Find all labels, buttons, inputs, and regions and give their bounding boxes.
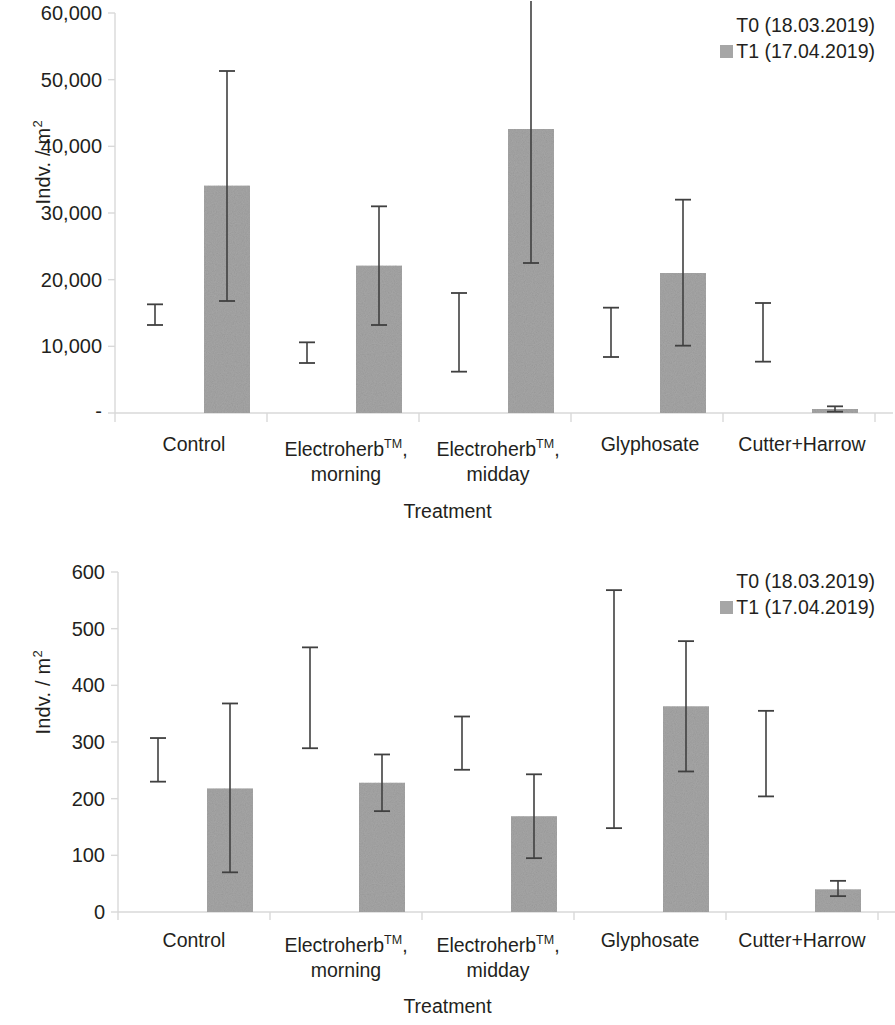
legend-label-t1-bottom: T1 (17.04.2019) (736, 594, 875, 620)
y-axis-label-top: Indv. / m2 (0, 150, 30, 175)
y-tick-label: 500 (72, 618, 105, 640)
x-axis-categories-top: ControlElectroherbTM, morningElectroherb… (118, 432, 878, 487)
y-tick-label: 300 (72, 731, 105, 753)
error-bar-t0-electroherb-midday (451, 293, 467, 372)
legend-item-t1-bottom: T1 (17.04.2019) (720, 594, 875, 620)
trademark-mark: TM (536, 437, 554, 451)
y-tick-label: 200 (72, 788, 105, 810)
chart-bottom-panel: Indv. / m2 T0 (18.03.2019) T1 (17.04.201… (0, 540, 895, 1025)
x-category-label: ElectroherbTM, morning (270, 928, 422, 983)
legend-swatch-t1-top (720, 45, 733, 58)
x-category-label: Cutter+Harrow (726, 432, 878, 487)
y-tick-label: 20,000 (41, 269, 102, 291)
legend-item-t0-bottom: T0 (18.03.2019) (720, 568, 875, 594)
y-axis-label-text-bottom: Indv. / m (32, 658, 54, 735)
trademark-mark: TM (384, 933, 402, 947)
error-bar-t0-electroherb-morning (299, 342, 315, 363)
error-bar-t0-control (150, 738, 166, 782)
y-axis-label-bottom: Indv. / m2 (0, 680, 30, 705)
legend-swatch-t1-bottom (720, 601, 733, 614)
y-axis-label-sup-bottom: 2 (30, 650, 45, 657)
legend-label-t0-bottom: T0 (18.03.2019) (736, 568, 875, 594)
y-tick-label: 50,000 (41, 69, 102, 91)
y-tick-label: 400 (72, 674, 105, 696)
x-category-label: Control (118, 928, 270, 983)
error-bar-t0-glyphosate (606, 590, 622, 828)
x-category-label: Cutter+Harrow (726, 928, 878, 983)
error-bar-t0-cutter-harrow (755, 303, 771, 362)
error-bar-t0-electroherb-midday (454, 717, 470, 770)
y-tick-label: 10,000 (41, 335, 102, 357)
x-category-label: Control (118, 432, 270, 487)
trademark-mark: TM (384, 437, 402, 451)
x-category-label: ElectroherbTM, midday (422, 432, 574, 487)
error-bar-t0-electroherb-morning (302, 647, 318, 748)
y-tick-label: 30,000 (41, 202, 102, 224)
x-axis-categories-bottom: ControlElectroherbTM, morningElectroherb… (118, 928, 878, 983)
y-tick-label: 600 (72, 561, 105, 583)
legend-bottom: T0 (18.03.2019) T1 (17.04.2019) (720, 568, 875, 620)
legend-swatch-t0-bottom (720, 575, 733, 588)
x-category-label: Glyphosate (574, 432, 726, 487)
y-tick-label: - (95, 400, 102, 422)
legend-item-t1-top: T1 (17.04.2019) (720, 38, 875, 64)
error-bar-t0-control (147, 304, 163, 325)
x-axis-title-top: Treatment (0, 500, 895, 523)
y-axis-label-sup-top: 2 (30, 120, 45, 127)
trademark-mark: TM (536, 933, 554, 947)
error-bar-t0-glyphosate (603, 308, 619, 357)
y-axis-label-text-top: Indv. / m (32, 128, 54, 205)
x-category-label: Glyphosate (574, 928, 726, 983)
legend-swatch-t0-top (720, 19, 733, 32)
legend-item-t0-top: T0 (18.03.2019) (720, 12, 875, 38)
y-tick-label: 60,000 (41, 2, 102, 24)
x-category-label: ElectroherbTM, morning (270, 432, 422, 487)
legend-label-t1-top: T1 (17.04.2019) (736, 38, 875, 64)
chart-top-panel: Indv. / m2 T0 (18.03.2019) T1 (17.04.201… (0, 0, 895, 540)
x-axis-title-bottom: Treatment (0, 995, 895, 1018)
y-tick-label: 100 (72, 844, 105, 866)
legend-top: T0 (18.03.2019) T1 (17.04.2019) (720, 12, 875, 64)
y-tick-label: 0 (94, 901, 105, 920)
x-category-label: ElectroherbTM, midday (422, 928, 574, 983)
error-bar-t0-cutter-harrow (758, 711, 774, 797)
legend-label-t0-top: T0 (18.03.2019) (736, 12, 875, 38)
